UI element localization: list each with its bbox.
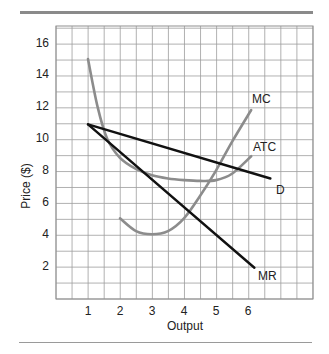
d-label: D bbox=[276, 183, 285, 197]
curves bbox=[88, 59, 270, 268]
atc-label: ATC bbox=[253, 140, 276, 154]
x-tick: 3 bbox=[149, 304, 156, 318]
mr-label: MR bbox=[258, 269, 277, 283]
y-tick: 16 bbox=[36, 36, 50, 50]
y-tick: 8 bbox=[42, 163, 49, 177]
mc-label: MC bbox=[252, 92, 271, 106]
y-tick: 12 bbox=[36, 99, 50, 113]
y-axis-label: Price ($) bbox=[19, 163, 33, 208]
x-tick: 5 bbox=[213, 304, 220, 318]
grid bbox=[56, 26, 313, 299]
x-axis-label: Output bbox=[167, 319, 204, 333]
atc-curve bbox=[88, 59, 251, 181]
y-tick: 4 bbox=[42, 227, 49, 241]
y-axis-ticks: 2 4 6 8 10 12 14 16 bbox=[36, 36, 50, 273]
x-tick: 2 bbox=[117, 304, 124, 318]
y-tick: 10 bbox=[36, 131, 50, 145]
chart: 2 4 6 8 10 12 14 16 1 2 3 4 5 6 Output P… bbox=[0, 0, 329, 354]
x-tick: 1 bbox=[85, 304, 92, 318]
x-tick: 6 bbox=[245, 304, 252, 318]
x-axis-ticks: 1 2 3 4 5 6 bbox=[85, 304, 252, 318]
bottom-rule bbox=[19, 342, 312, 343]
y-tick: 14 bbox=[36, 67, 50, 81]
x-tick: 4 bbox=[181, 304, 188, 318]
y-tick: 2 bbox=[42, 259, 49, 273]
y-tick: 6 bbox=[42, 195, 49, 209]
